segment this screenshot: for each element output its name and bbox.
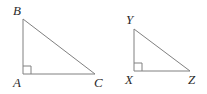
vertex-label-c: C: [94, 76, 103, 89]
triangle-xyz: [134, 29, 190, 71]
vertex-label-x: X: [125, 73, 133, 86]
vertex-label-b: B: [13, 4, 21, 17]
right-angle-mark-x: [134, 63, 142, 71]
right-angle-mark-a: [23, 66, 31, 74]
triangle-abc-outline: [23, 19, 95, 74]
vertex-label-y: Y: [126, 13, 133, 26]
triangle-abc: [23, 19, 95, 74]
geometry-figure: [0, 0, 207, 94]
vertex-label-a: A: [13, 76, 21, 89]
vertex-label-z: Z: [188, 73, 195, 86]
